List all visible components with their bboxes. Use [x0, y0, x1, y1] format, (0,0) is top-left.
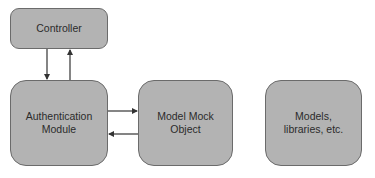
models-libraries-node: Models, libraries, etc.	[265, 80, 362, 166]
controller-node: Controller	[10, 8, 108, 49]
authentication-module-node: Authentication Module	[10, 80, 108, 166]
model-mock-object-node: Model Mock Object	[138, 80, 233, 166]
